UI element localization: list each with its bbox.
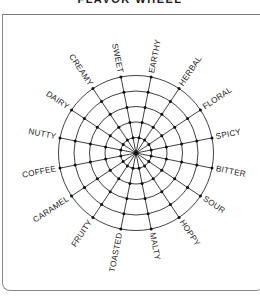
wheel-node[interactable] <box>147 160 150 163</box>
wheel-node[interactable] <box>119 155 122 158</box>
wheel-node[interactable] <box>138 136 141 139</box>
wheel-node[interactable] <box>150 228 153 231</box>
wheel-node[interactable] <box>117 126 120 129</box>
wheel-node[interactable] <box>141 182 144 185</box>
wheel-node[interactable] <box>128 121 131 124</box>
wheel-node[interactable] <box>152 177 155 180</box>
wheel-node[interactable] <box>91 87 94 90</box>
wheel-node[interactable] <box>178 216 181 219</box>
wheel-node[interactable] <box>165 145 168 148</box>
wheel-node[interactable] <box>126 164 129 167</box>
wheel-node[interactable] <box>211 136 214 139</box>
wheel-node[interactable] <box>58 136 61 139</box>
wheel-node[interactable] <box>186 117 189 120</box>
wheel-node[interactable] <box>125 197 128 200</box>
wheel-node[interactable] <box>128 182 131 185</box>
flavor-label-dairy: DAIRY <box>44 89 71 111</box>
wheel-node[interactable] <box>144 197 147 200</box>
wheel-node[interactable] <box>186 186 189 189</box>
wheel-node[interactable] <box>89 161 92 164</box>
wheel-node[interactable] <box>119 148 122 151</box>
wheel-node[interactable] <box>152 126 155 129</box>
wheel-node[interactable] <box>173 126 176 129</box>
wheel-node[interactable] <box>160 134 163 137</box>
flavor-label-spicy: SPICY <box>215 127 242 141</box>
wheel-node[interactable] <box>122 160 125 163</box>
flavor-label-coffee: COFFEE <box>21 164 57 180</box>
wheel-node[interactable] <box>169 203 172 206</box>
wheel-node[interactable] <box>131 167 134 170</box>
flavor-label-fruity: FRUITY <box>70 218 95 249</box>
wheel-node[interactable] <box>70 195 73 198</box>
wheel-node[interactable] <box>100 100 103 103</box>
wheel-node[interactable] <box>100 203 103 206</box>
wheel-node[interactable] <box>122 143 125 146</box>
wheel-node[interactable] <box>83 117 86 120</box>
wheel-node[interactable] <box>195 164 198 167</box>
wheel-node[interactable] <box>178 87 181 90</box>
wheel-node[interactable] <box>89 142 92 145</box>
wheel-node[interactable] <box>141 121 144 124</box>
flavor-label-hoppy: HOPPY <box>178 218 202 248</box>
wheel-node[interactable] <box>150 148 153 151</box>
wheel-node[interactable] <box>122 91 125 94</box>
flavor-label-floral: FLORAL <box>201 85 234 111</box>
wheel-node[interactable] <box>211 167 214 170</box>
wheel-node[interactable] <box>70 108 73 111</box>
wheel-node[interactable] <box>147 212 150 215</box>
wheel-node[interactable] <box>117 177 120 180</box>
wheel-node[interactable] <box>147 91 150 94</box>
flavor-label-earthy: EARTHY <box>147 38 163 74</box>
flavor-label-sour: SOUR <box>201 194 226 215</box>
wheel-nodes <box>58 75 213 230</box>
wheel-node[interactable] <box>150 75 153 78</box>
wheel-node[interactable] <box>96 126 99 129</box>
wheel-node[interactable] <box>144 106 147 109</box>
wheel-node[interactable] <box>199 108 202 111</box>
wheel-node[interactable] <box>150 155 153 158</box>
wheel-node[interactable] <box>199 195 202 198</box>
wheel-node[interactable] <box>74 164 77 167</box>
wheel-node[interactable] <box>104 145 107 148</box>
wheel-node[interactable] <box>126 139 129 142</box>
flavor-label-sweet: SWEET <box>110 43 125 74</box>
wheel-node[interactable] <box>143 139 146 142</box>
flavor-label-herbal: HERBAL <box>177 54 203 87</box>
flavor-wheel-diagram: SWEETEARTHYHERBALFLORALSPICYBITTERSOURHO… <box>0 0 260 299</box>
wheel-node[interactable] <box>180 142 183 145</box>
wheel-node[interactable] <box>160 169 163 172</box>
wheel-node[interactable] <box>169 100 172 103</box>
wheel-node[interactable] <box>195 139 198 142</box>
wheel-node[interactable] <box>109 134 112 137</box>
wheel-node[interactable] <box>74 139 77 142</box>
wheel-node[interactable] <box>109 169 112 172</box>
flavor-label-creamy: CREAMY <box>67 52 95 87</box>
wheel-node[interactable] <box>119 75 122 78</box>
flavor-label-bitter: BITTER <box>215 164 246 179</box>
wheel-node[interactable] <box>83 186 86 189</box>
wheel-node[interactable] <box>104 158 107 161</box>
wheel-node[interactable] <box>96 177 99 180</box>
wheel-node[interactable] <box>122 212 125 215</box>
wheel-node[interactable] <box>109 190 112 193</box>
flavor-label-caramel: CARAMEL <box>31 194 70 224</box>
wheel-node[interactable] <box>180 161 183 164</box>
wheel-node[interactable] <box>91 216 94 219</box>
wheel-node[interactable] <box>173 177 176 180</box>
wheel-node[interactable] <box>147 143 150 146</box>
wheel-node[interactable] <box>138 167 141 170</box>
wheel-node[interactable] <box>160 113 163 116</box>
wheel-center-node <box>134 151 138 155</box>
wheel-node[interactable] <box>125 106 128 109</box>
wheel-node[interactable] <box>109 113 112 116</box>
wheel-node[interactable] <box>165 158 168 161</box>
flavor-label-toasted: TOASTED <box>108 232 125 273</box>
wheel-node[interactable] <box>58 167 61 170</box>
flavor-label-nutty: NUTTY <box>27 127 57 141</box>
wheel-node[interactable] <box>119 228 122 231</box>
flavor-label-malty: MALTY <box>148 232 162 261</box>
wheel-node[interactable] <box>131 136 134 139</box>
wheel-node[interactable] <box>160 190 163 193</box>
wheel-node[interactable] <box>143 164 146 167</box>
